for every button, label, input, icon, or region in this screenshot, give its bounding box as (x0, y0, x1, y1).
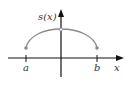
x-axis-arrowhead-icon (116, 55, 124, 61)
label-a: a (23, 62, 29, 73)
x-axis-label: x (114, 62, 120, 73)
endpoint-b (95, 46, 99, 50)
y-axis-arrowhead-icon (58, 9, 64, 17)
function-diagram: s(x) a b x (0, 0, 132, 92)
label-b: b (94, 62, 100, 73)
function-label: s(x) (38, 11, 57, 22)
y-intercept-point (59, 28, 62, 31)
endpoint-a (24, 46, 28, 50)
